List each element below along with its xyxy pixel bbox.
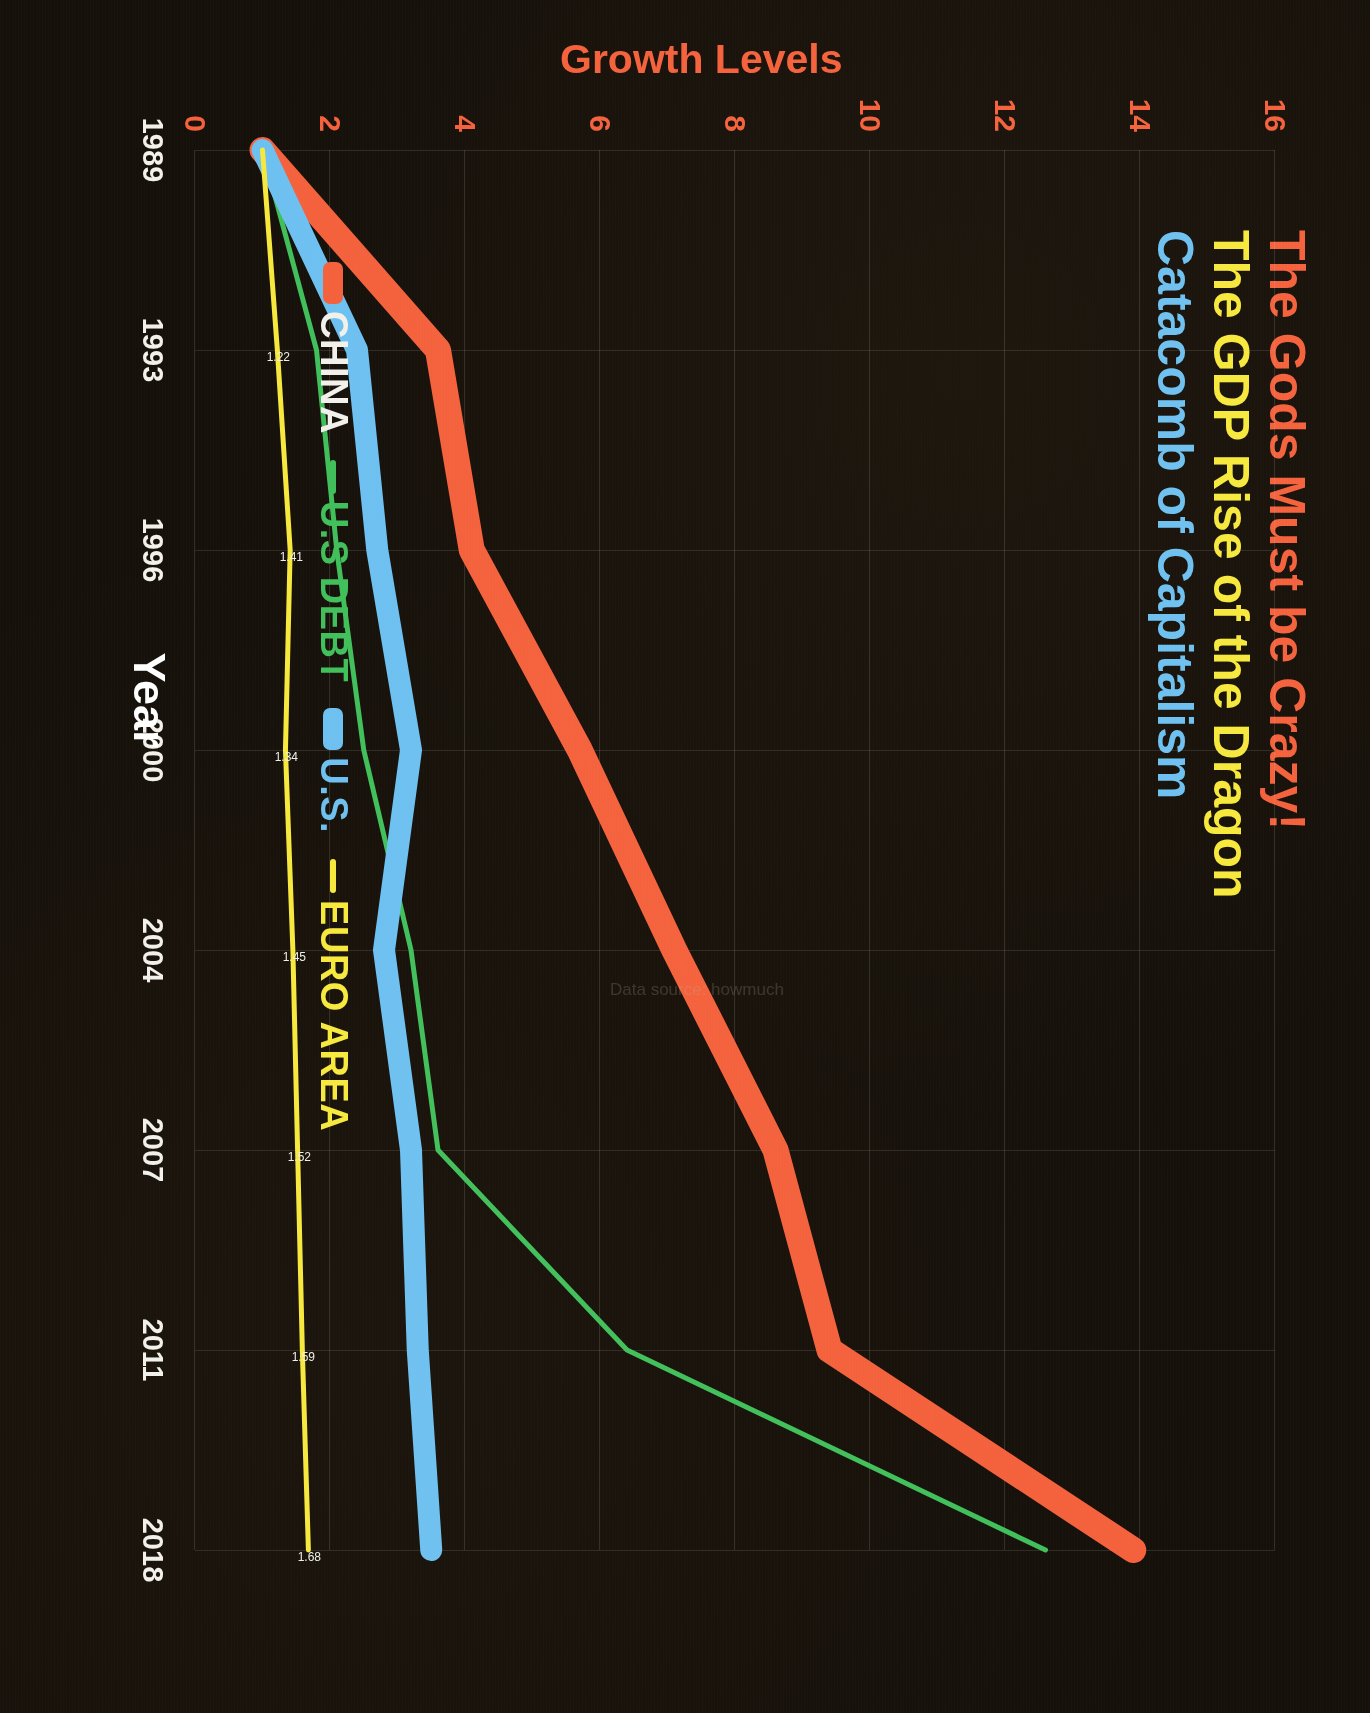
legend-item-u-s-[interactable]: U.S. xyxy=(312,708,355,833)
y-tick-label: 16 xyxy=(1258,99,1292,132)
legend-swatch-icon xyxy=(331,460,337,494)
y-tick-label: 2 xyxy=(313,115,347,132)
data-point-label: 1.34 xyxy=(275,750,298,764)
y-tick-label: 0 xyxy=(178,115,212,132)
series-line-u-s-debt xyxy=(263,150,1046,1550)
y-tick-label: 14 xyxy=(1123,99,1157,132)
legend-swatch-icon xyxy=(324,262,344,304)
data-point-label: 1.45 xyxy=(283,950,306,964)
data-point-label: 1.68 xyxy=(298,1550,321,1564)
y-axis-label: Growth Levels xyxy=(560,36,843,83)
y-tick-label: 6 xyxy=(583,115,617,132)
legend-item-u-s-debt[interactable]: U.S DEBT xyxy=(312,460,355,682)
data-point-label: 1.52 xyxy=(287,1150,310,1164)
legend-label: EURO AREA xyxy=(312,900,355,1131)
legend-item-china[interactable]: CHINA xyxy=(312,262,355,434)
y-tick-label: 4 xyxy=(448,115,482,132)
legend-label: U.S DEBT xyxy=(312,501,355,682)
plot-area: 0246810121416 19891993199620002004200720… xyxy=(195,150,1275,1550)
legend-label: U.S. xyxy=(312,757,355,833)
data-source-watermark: Data source: howmuch xyxy=(610,980,784,1000)
y-tick-label: 8 xyxy=(718,115,752,132)
chart-legend: CHINAU.S DEBTU.S.EURO AREA xyxy=(312,262,355,1147)
legend-label: CHINA xyxy=(312,311,355,434)
y-tick-label: 12 xyxy=(988,99,1022,132)
legend-item-euro-area[interactable]: EURO AREA xyxy=(312,859,355,1131)
x-tick-label: 2018 xyxy=(136,1518,169,1583)
x-axis-label: Year xyxy=(123,0,175,1400)
rotated-chart-canvas: The Gods Must be Crazy! The GDP Rise of … xyxy=(0,0,1370,1713)
legend-swatch-icon xyxy=(331,859,337,893)
series-lines xyxy=(195,150,1275,1550)
chart-image-frame: The Gods Must be Crazy! The GDP Rise of … xyxy=(0,0,1370,1713)
data-point-label: 1.22 xyxy=(267,350,290,364)
data-point-label: 1.41 xyxy=(280,550,303,564)
y-tick-label: 10 xyxy=(853,99,887,132)
data-point-label: 1.59 xyxy=(292,1350,315,1364)
legend-swatch-icon xyxy=(324,708,344,750)
